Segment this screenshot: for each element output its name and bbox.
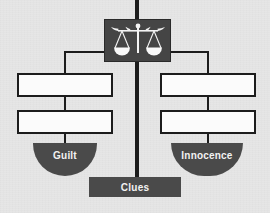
right-node-box-2-label [162,112,254,132]
right-node-box-1[interactable] [160,73,256,97]
left-node-box-1-label [19,75,111,95]
connector-left-box1-to-box2 [64,96,66,110]
connector-right-box2-to-pan [207,133,209,143]
connector-left-box2-to-pan [64,133,66,143]
left-node-box-1[interactable] [17,73,113,97]
right-node-box-2[interactable] [160,110,256,134]
left-node-box-2-label [19,112,111,132]
left-node-box-2[interactable] [17,110,113,134]
justice-scales-diagram: Guilt Innocence Clues [0,0,270,213]
outcome-pan-guilt-label: Guilt [33,150,97,161]
connector-drop-left [64,51,66,73]
outcome-pan-innocence-label: Innocence [171,150,243,161]
outcome-pan-innocence: Innocence [171,143,243,176]
right-node-box-1-label [162,75,254,95]
connector-drop-right [207,51,209,73]
clues-box-label: Clues [121,182,150,193]
outcome-pan-guilt: Guilt [33,143,97,176]
connector-trunk-bottom [135,58,139,178]
connector-right-box1-to-box2 [207,96,209,110]
scales-of-justice-icon [104,19,171,62]
clues-box: Clues [89,177,181,197]
